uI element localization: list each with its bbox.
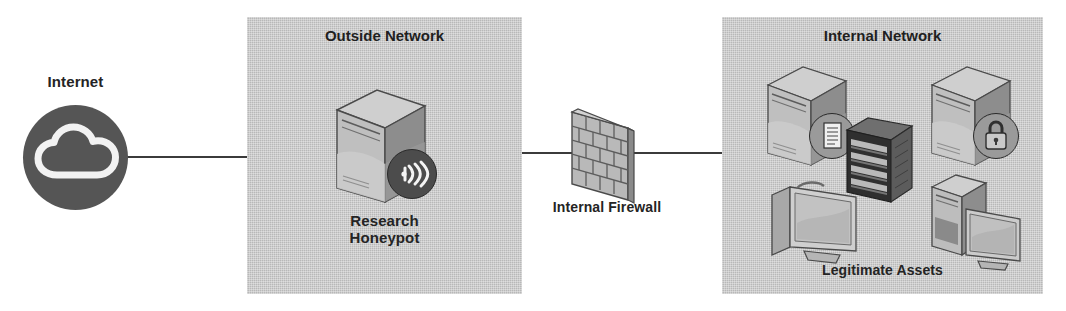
internet-label: Internet bbox=[8, 74, 143, 91]
research-honeypot-label: Research Honeypot bbox=[247, 213, 522, 247]
research-honeypot-server bbox=[325, 84, 445, 209]
workstation-2 bbox=[922, 169, 1037, 274]
workstation-1 bbox=[764, 175, 874, 270]
monitor-icon bbox=[764, 175, 874, 270]
desktop-pc-icon bbox=[922, 169, 1037, 274]
internal-firewall-node bbox=[566, 100, 646, 205]
network-topology-diagram: Internet Outside Network bbox=[0, 0, 1066, 311]
wireless-signal-icon bbox=[388, 150, 436, 198]
brick-wall-icon bbox=[566, 100, 646, 205]
secure-server bbox=[922, 62, 1027, 172]
padlock-badge bbox=[973, 113, 1019, 159]
legitimate-assets-label: Legitimate Assets bbox=[722, 263, 1043, 279]
cloud-icon bbox=[23, 105, 128, 210]
server-icon bbox=[922, 62, 1027, 172]
internal-firewall-label: Internal Firewall bbox=[533, 200, 681, 216]
padlock-icon bbox=[974, 114, 1018, 158]
link-internet-to-outside bbox=[127, 156, 248, 158]
zone-internal-network: Internal Network bbox=[722, 17, 1043, 294]
wireless-signal-badge bbox=[387, 149, 437, 199]
zone-outside-network: Outside Network bbox=[247, 17, 522, 294]
zone-outside-network-title: Outside Network bbox=[247, 27, 522, 44]
internet-cloud-circle bbox=[23, 105, 128, 210]
link-firewall-to-internal bbox=[640, 152, 723, 154]
zone-internal-network-title: Internal Network bbox=[722, 27, 1043, 44]
